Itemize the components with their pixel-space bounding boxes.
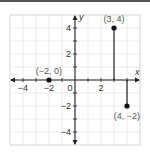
coordinate-plane: −4−20242−2−4 (−2, 0)(3, 4)(4, −2) x y: [0, 0, 150, 153]
data-point: [124, 103, 129, 108]
data-point: [46, 77, 51, 82]
y-tick-label: 2: [66, 49, 71, 59]
y-axis-label: y: [78, 12, 84, 22]
y-tick-label: −2: [61, 101, 71, 111]
x-tick-label: 0: [67, 83, 72, 93]
x-tick-label: 2: [98, 83, 103, 93]
x-tick-label: −4: [18, 83, 28, 93]
x-axis-label: x: [134, 67, 140, 77]
point-label: (−2, 0): [36, 66, 62, 76]
y-tick-label: 4: [66, 23, 71, 33]
data-point: [111, 25, 116, 30]
x-tick-label: −2: [44, 83, 54, 93]
y-tick-label: −4: [61, 127, 71, 137]
point-label: (3, 4): [103, 14, 124, 24]
point-label: (4, −2): [114, 111, 140, 121]
